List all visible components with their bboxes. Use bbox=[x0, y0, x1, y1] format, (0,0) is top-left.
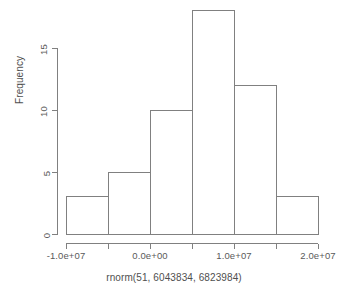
histogram-bar bbox=[234, 85, 276, 234]
histogram-bar bbox=[150, 110, 192, 234]
x-tick-label-6: 2.0e+07 bbox=[300, 250, 335, 261]
y-tick-label-0: 0 bbox=[41, 233, 52, 238]
histogram-plot: -1.0e+07 0.0e+00 1.0e+07 2.0e+07 0 5 10 … bbox=[0, 0, 348, 305]
histogram-bar bbox=[66, 197, 108, 234]
x-tick-label-0: -1.0e+07 bbox=[47, 250, 86, 261]
histogram-bar bbox=[108, 172, 150, 234]
histogram-bar bbox=[276, 197, 318, 234]
plot-area: -1.0e+07 0.0e+00 1.0e+07 2.0e+07 0 5 10 … bbox=[0, 0, 348, 305]
histogram-bar bbox=[192, 11, 234, 234]
y-tick-label-5: 5 bbox=[41, 171, 52, 176]
x-tick-label-4: 1.0e+07 bbox=[216, 250, 251, 261]
x-axis-title: rnorm(51, 6043834, 6823984) bbox=[0, 272, 348, 283]
y-tick-label-10: 10 bbox=[38, 106, 49, 117]
y-tick-label-15: 15 bbox=[38, 44, 49, 55]
x-tick-label-2: 0.0e+00 bbox=[132, 250, 167, 261]
y-axis-title: Frequency bbox=[14, 56, 25, 104]
bars-group bbox=[66, 11, 318, 234]
